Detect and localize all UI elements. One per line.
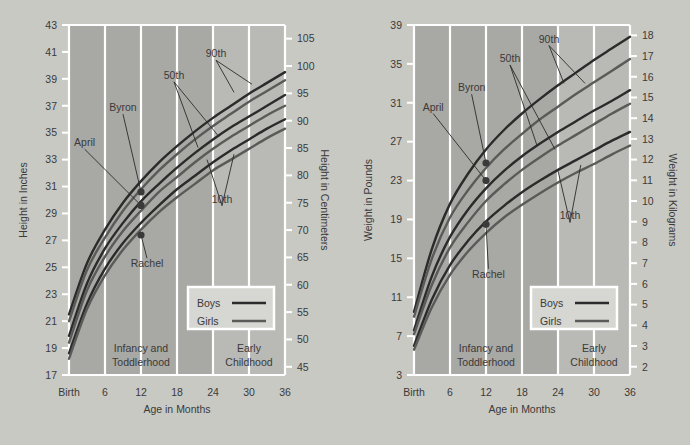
percentile-label: 10th bbox=[560, 209, 581, 221]
right-tick-label: 75 bbox=[297, 197, 309, 209]
left-tick-label: 15 bbox=[390, 252, 402, 264]
x-tick-label: 6 bbox=[447, 386, 453, 398]
left-tick-label: 35 bbox=[390, 58, 402, 70]
left-tick-label: 23 bbox=[45, 288, 57, 300]
band-label-line1: Early bbox=[582, 342, 607, 354]
child-label-rachel: Rachel bbox=[131, 257, 164, 269]
left-tick-label: 23 bbox=[390, 174, 402, 186]
right-tick-label: 17 bbox=[642, 50, 654, 62]
percentile-label: 10th bbox=[212, 193, 233, 205]
child-label-rachel: Rachel bbox=[472, 268, 505, 280]
x-tick-label: 12 bbox=[480, 386, 492, 398]
legend: BoysGirls bbox=[188, 287, 274, 329]
right-tick-label: 60 bbox=[297, 279, 309, 291]
left-tick-label: 21 bbox=[45, 315, 57, 327]
percentile-label: 90th bbox=[206, 47, 227, 59]
x-tick-label: 18 bbox=[171, 386, 183, 398]
weight-chart-panel: 371115192327313539Weight in Pounds234567… bbox=[345, 0, 690, 445]
right-axis-title: Height in Centimeters bbox=[319, 150, 331, 251]
left-axis: 1719212325272931333537394143Height in In… bbox=[17, 19, 69, 381]
x-tick-label: 12 bbox=[135, 386, 147, 398]
percentile-label: 90th bbox=[539, 33, 560, 45]
right-axis: 23456789101112131415161718Weight in Kilo… bbox=[630, 29, 679, 372]
data-point-rachel[interactable] bbox=[137, 231, 144, 238]
height-chart: 1719212325272931333537394143Height in In… bbox=[0, 0, 345, 445]
legend-label-boys: Boys bbox=[540, 297, 563, 309]
left-tick-label: 17 bbox=[45, 369, 57, 381]
band-label-line1: Infancy and bbox=[459, 342, 513, 354]
left-tick-label: 41 bbox=[45, 46, 57, 58]
left-axis: 371115192327313539Weight in Pounds bbox=[362, 19, 414, 381]
x-axis-title: Age in Months bbox=[488, 403, 555, 415]
right-axis-title: Weight in Kilograms bbox=[667, 153, 679, 246]
percentile-label: 50th bbox=[164, 69, 185, 81]
x-tick-label: Birth bbox=[58, 386, 80, 398]
band-label-line2: Toddlerhood bbox=[112, 356, 170, 368]
child-label-byron: Byron bbox=[109, 101, 137, 113]
right-tick-label: 2 bbox=[642, 361, 648, 373]
right-tick-label: 7 bbox=[642, 257, 648, 269]
weight-chart: 371115192327313539Weight in Pounds234567… bbox=[345, 0, 690, 445]
right-tick-label: 14 bbox=[642, 112, 654, 124]
right-tick-label: 5 bbox=[642, 298, 648, 310]
left-tick-label: 43 bbox=[45, 19, 57, 31]
band-label-line1: Infancy and bbox=[114, 342, 168, 354]
right-tick-label: 90 bbox=[297, 115, 309, 127]
x-tick-label: 24 bbox=[207, 386, 219, 398]
data-point-byron[interactable] bbox=[482, 159, 489, 166]
x-tick-label: 18 bbox=[516, 386, 528, 398]
x-tick-label: 6 bbox=[102, 386, 108, 398]
left-tick-label: 11 bbox=[391, 291, 402, 303]
right-tick-label: 18 bbox=[642, 29, 654, 41]
left-tick-label: 37 bbox=[45, 100, 57, 112]
x-tick-label: 30 bbox=[243, 386, 255, 398]
left-tick-label: 25 bbox=[45, 261, 57, 273]
left-tick-label: 31 bbox=[390, 97, 402, 109]
x-tick-label: 36 bbox=[624, 386, 636, 398]
right-tick-label: 10 bbox=[642, 195, 654, 207]
right-axis: 4550556065707580859095100105Height in Ce… bbox=[285, 32, 331, 372]
legend-label-boys: Boys bbox=[197, 297, 220, 309]
right-tick-label: 85 bbox=[297, 142, 309, 154]
right-tick-label: 105 bbox=[297, 32, 315, 44]
right-tick-label: 12 bbox=[642, 153, 654, 165]
data-point-april[interactable] bbox=[137, 202, 144, 209]
left-tick-label: 39 bbox=[45, 73, 57, 85]
left-tick-label: 27 bbox=[390, 135, 402, 147]
band-label-line2: Toddlerhood bbox=[457, 356, 515, 368]
left-tick-label: 35 bbox=[45, 126, 57, 138]
left-tick-label: 7 bbox=[396, 330, 402, 342]
right-tick-label: 9 bbox=[642, 216, 648, 228]
legend: BoysGirls bbox=[531, 287, 617, 329]
right-tick-label: 8 bbox=[642, 236, 648, 248]
left-tick-label: 33 bbox=[45, 153, 57, 165]
data-point-april[interactable] bbox=[482, 177, 489, 184]
x-axis-title: Age in Months bbox=[143, 403, 210, 415]
height-chart-panel: 1719212325272931333537394143Height in In… bbox=[0, 0, 345, 445]
right-tick-label: 4 bbox=[642, 319, 648, 331]
data-point-byron[interactable] bbox=[137, 188, 144, 195]
child-label-byron: Byron bbox=[458, 81, 486, 93]
band-label-line2: Childhood bbox=[570, 356, 617, 368]
right-tick-label: 11 bbox=[642, 174, 653, 186]
right-tick-label: 15 bbox=[642, 91, 654, 103]
left-tick-label: 19 bbox=[390, 213, 402, 225]
x-axis: Birth61218243036Age in Months bbox=[403, 386, 636, 415]
right-tick-label: 55 bbox=[297, 306, 309, 318]
x-tick-label: 24 bbox=[552, 386, 564, 398]
left-tick-label: 31 bbox=[45, 180, 57, 192]
data-point-rachel[interactable] bbox=[482, 221, 489, 228]
child-label-april: April bbox=[423, 101, 444, 113]
legend-label-girls: Girls bbox=[197, 315, 219, 327]
percentile-label: 50th bbox=[500, 52, 521, 64]
left-tick-label: 29 bbox=[45, 207, 57, 219]
left-tick-label: 27 bbox=[45, 234, 57, 246]
x-tick-label: 36 bbox=[279, 386, 291, 398]
band-label-line2: Childhood bbox=[225, 356, 272, 368]
left-tick-label: 3 bbox=[396, 369, 402, 381]
left-tick-label: 19 bbox=[45, 342, 57, 354]
right-tick-label: 6 bbox=[642, 278, 648, 290]
legend-label-girls: Girls bbox=[540, 315, 562, 327]
left-axis-title: Height in Inches bbox=[17, 162, 29, 237]
right-tick-label: 16 bbox=[642, 71, 654, 83]
